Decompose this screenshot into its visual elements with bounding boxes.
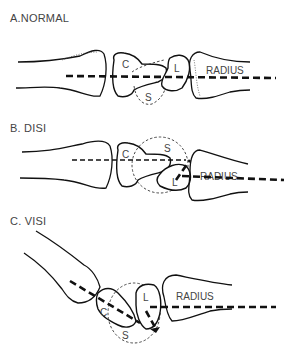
axis-line — [66, 76, 276, 78]
scaphoid-label: S — [164, 143, 171, 154]
scaphoid-label: S — [122, 330, 129, 341]
disi-wrist-diagram: C S L RADIUS — [0, 110, 292, 210]
normal-wrist-diagram: C S L RADIUS — [0, 0, 292, 110]
panel-disi: B. DISI C S L RADIUS — [0, 110, 292, 210]
panel-normal: A.NORMAL C S L RADIUS — [0, 0, 292, 110]
capitate-label: C — [122, 149, 129, 160]
capitate-label: C — [100, 307, 107, 318]
metacarpal-bone — [16, 50, 106, 96]
visi-wrist-diagram: C S L RADIUS — [0, 205, 292, 347]
lunate-label: L — [174, 63, 180, 74]
radius-label: RADIUS — [206, 65, 244, 76]
lunate-label: L — [143, 292, 149, 303]
panel-visi: C. VISI C S L RADIUS — [0, 205, 292, 347]
radius-label: RADIUS — [176, 291, 214, 302]
metacarpal-bone — [20, 141, 112, 188]
scaphoid-label: S — [145, 92, 152, 103]
capitate-bone — [113, 53, 167, 97]
capitate-label: C — [122, 59, 129, 70]
metacarpal-bone — [24, 231, 100, 303]
